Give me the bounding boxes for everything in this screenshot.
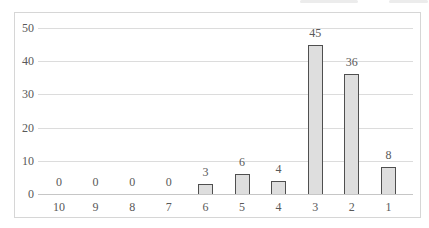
y-axis-tick-label: 50	[15, 22, 34, 34]
x-axis-category-label: 8	[117, 201, 147, 213]
bar-value-label: 4	[264, 163, 294, 175]
bar-value-label: 3	[190, 166, 220, 178]
y-axis-tick-label: 0	[15, 188, 34, 200]
bar-chart: 0102030405001009080736654445336281	[14, 12, 421, 218]
x-axis-category-label: 7	[154, 201, 184, 213]
screenshot-root: 0102030405001009080736654445336281	[0, 0, 429, 228]
bar-value-label: 0	[117, 176, 147, 188]
cropped-text-artifact	[300, 0, 358, 3]
bar-value-label: 6	[227, 156, 257, 168]
bar-value-label: 0	[154, 176, 184, 188]
x-axis-category-label: 2	[337, 201, 367, 213]
gridline	[38, 28, 413, 29]
x-axis-category-label: 10	[44, 201, 74, 213]
x-axis-category-label: 4	[264, 201, 294, 213]
bar-category-6	[198, 184, 213, 194]
x-axis-category-label: 9	[81, 201, 111, 213]
bar-category-4	[271, 181, 286, 194]
x-axis-category-label: 3	[300, 201, 330, 213]
bar-value-label: 45	[300, 27, 330, 39]
bar-category-1	[381, 167, 396, 194]
y-axis-tick-label: 40	[15, 55, 34, 67]
y-axis-tick-label: 30	[15, 88, 34, 100]
x-axis-category-label: 1	[373, 201, 403, 213]
x-axis-category-label: 6	[190, 201, 220, 213]
bar-category-3	[308, 45, 323, 194]
y-axis-tick-label: 10	[15, 155, 34, 167]
bar-category-2	[344, 74, 359, 194]
x-axis-line	[38, 194, 413, 195]
bar-value-label: 36	[337, 56, 367, 68]
y-axis-tick-label: 20	[15, 122, 34, 134]
bar-value-label: 8	[373, 149, 403, 161]
bar-value-label: 0	[44, 176, 74, 188]
bar-category-5	[235, 174, 250, 194]
cropped-text-artifact	[389, 0, 428, 3]
x-axis-category-label: 5	[227, 201, 257, 213]
bar-value-label: 0	[81, 176, 111, 188]
